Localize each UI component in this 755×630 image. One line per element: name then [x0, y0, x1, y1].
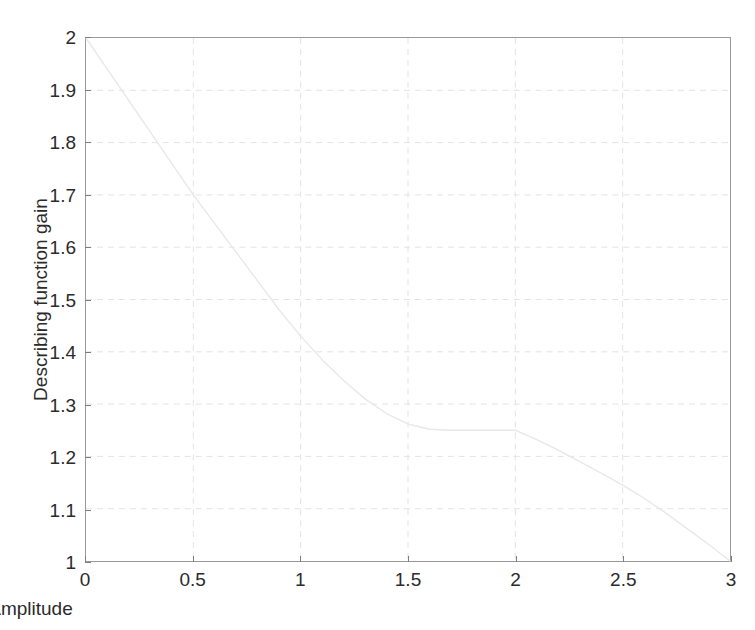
y-tick-label: 1.9 — [0, 80, 76, 99]
gridlines — [86, 38, 730, 561]
x-tick-mark — [731, 556, 732, 562]
y-tick-mark — [85, 247, 91, 248]
x-axis-label: Amplitude — [0, 598, 755, 620]
x-tick-label: 1.5 — [395, 570, 421, 589]
x-tick-mark — [516, 556, 517, 562]
figure-canvas: Describing function gain Amplitude 00.51… — [0, 0, 755, 630]
y-tick-label: 1.6 — [0, 238, 76, 257]
y-tick-mark — [85, 37, 91, 38]
y-tick-mark — [85, 405, 91, 406]
x-tick-label: 3 — [726, 570, 737, 589]
y-tick-mark — [85, 142, 91, 143]
x-tick-mark — [193, 556, 194, 562]
x-tick-mark — [408, 556, 409, 562]
x-tick-label: 2.5 — [610, 570, 636, 589]
y-tick-mark — [85, 457, 91, 458]
x-tick-mark — [300, 556, 301, 562]
y-tick-mark — [85, 352, 91, 353]
plot-area — [85, 37, 731, 562]
data-series-layer — [86, 38, 730, 561]
y-tick-mark — [85, 90, 91, 91]
y-tick-label: 1.8 — [0, 133, 76, 152]
x-tick-mark — [623, 556, 624, 562]
x-tick-label: 2 — [510, 570, 521, 589]
x-tick-label: 1 — [295, 570, 306, 589]
y-tick-label: 2 — [0, 28, 76, 47]
y-tick-mark — [85, 510, 91, 511]
y-tick-label: 1.2 — [0, 448, 76, 467]
y-tick-label: 1 — [0, 553, 76, 572]
y-tick-label: 1.1 — [0, 500, 76, 519]
x-tick-label: 0 — [80, 570, 91, 589]
x-axis-label-text: Amplitude — [0, 598, 73, 619]
data-series-line — [86, 38, 730, 561]
y-tick-label: 1.5 — [0, 290, 76, 309]
y-tick-label: 1.7 — [0, 185, 76, 204]
y-tick-label: 1.4 — [0, 343, 76, 362]
x-tick-label: 0.5 — [179, 570, 205, 589]
y-tick-label: 1.3 — [0, 395, 76, 414]
y-tick-mark — [85, 300, 91, 301]
y-tick-mark — [85, 562, 91, 563]
y-tick-mark — [85, 195, 91, 196]
